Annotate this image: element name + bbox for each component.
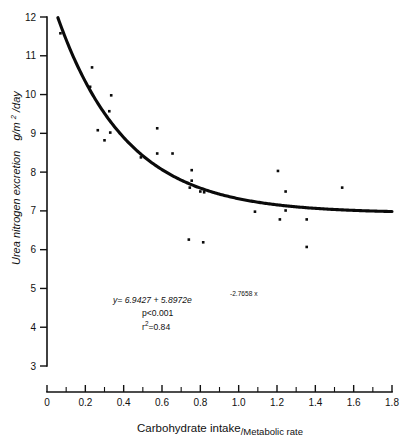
x-tick-label: 0.2 [78,397,92,408]
svg-text:y= 6.9427 + 5.8972e: y= 6.9427 + 5.8972e [112,295,192,305]
svg-text:r2=0.84: r2=0.84 [142,320,170,332]
data-point [284,190,287,193]
data-point [190,179,193,182]
data-point [341,186,344,189]
y-axis-label-text: Urea nitrogen excretion [10,151,22,265]
x-tick-label: 0.6 [155,397,169,408]
equation-exponent-text: -2.7658 x [230,290,258,297]
x-tick-label: 1.2 [270,397,284,408]
data-point [188,238,191,241]
y-axis-units-tail: /day [10,90,22,113]
data-point [171,152,174,155]
y-tick-label: 12 [25,12,37,23]
y-tick-label: 11 [26,50,37,61]
data-point [109,131,112,134]
data-point [140,156,143,159]
data-point [203,191,206,194]
equation-annotation: y= 6.9427 + 5.8972e -2.7658 x p<0.001 r2… [112,290,258,332]
data-point [305,218,308,221]
data-point [190,169,193,172]
x-tick-label: 1.6 [347,397,361,408]
scatter-plot: Urea nitrogen excretion g/m 2 /day 34567… [0,0,412,442]
x-tick-label: 0.8 [193,397,207,408]
x-axis-ticks: 00.20.40.60.81.01.21.41.61.8 [44,385,399,408]
data-point [199,190,202,193]
x-axis-label: Carbohydrate intake/Metabolic rate [137,422,303,437]
x-tick-label: 0 [44,397,50,408]
y-tick-label: 6 [30,244,36,255]
data-point [202,241,205,244]
svg-text:Urea nitrogen excretion: Urea nitrogen excretion g/m 2 /day [6,90,22,265]
y-axis-label: Urea nitrogen excretion g/m 2 /day [6,90,22,265]
y-axis-units-exponent: 2 [9,114,18,120]
x-tick-label: 1.4 [308,397,322,408]
data-point [188,186,191,189]
data-point [254,210,257,213]
data-point [284,209,287,212]
data-point [277,170,280,173]
data-point [279,218,282,221]
y-tick-label: 3 [30,361,36,372]
x-tick-label: 1.0 [232,397,246,408]
data-point [108,110,111,113]
figure-container: Urea nitrogen excretion g/m 2 /day 34567… [0,0,412,442]
data-point [89,86,92,89]
x-tick-label: 1.8 [385,397,399,408]
x-tick-label: 0.4 [117,397,131,408]
y-tick-label: 9 [30,128,36,139]
data-point [59,32,62,35]
y-tick-label: 10 [25,89,37,100]
y-axis-units-base: g/m [10,122,22,140]
data-point [156,127,159,130]
svg-text:Carbohydrate intake/Metabolic: Carbohydrate intake/Metabolic rate [137,422,303,437]
data-point [91,66,94,69]
x-axis-label-denominator: Metabolic rate [243,426,303,437]
y-tick-label: 7 [30,205,36,216]
y-axis-ticks: 3456789101112 [25,12,47,372]
data-point [103,139,106,142]
equation-main-text: y= 6.9427 + 5.8972e [112,295,192,305]
data-point [110,94,113,97]
y-tick-label: 8 [30,167,36,178]
data-point [96,129,99,132]
data-points-group [59,32,343,248]
r-squared-value: =0.84 [148,322,170,332]
data-point [305,246,308,249]
y-tick-label: 5 [30,283,36,294]
data-point [156,152,159,155]
p-value-text: p<0.001 [142,308,174,318]
x-axis-label-numerator: Carbohydrate intake [137,422,241,434]
fit-curve [58,18,392,212]
y-tick-label: 4 [30,322,36,333]
